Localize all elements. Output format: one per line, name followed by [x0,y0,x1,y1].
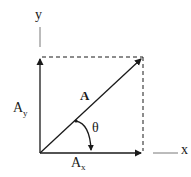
y-component-label: A y [13,100,28,118]
vector-a-label: A [80,88,90,103]
x-component-label: A x [71,155,86,172]
y-component-label-sub: y [23,108,28,118]
x-axis-label: x [181,142,188,157]
angle-arc [76,121,91,150]
x-component-label-sub: x [81,162,86,172]
angle-theta-label: θ [92,120,99,135]
y-axis-label: y [35,7,42,22]
vector-components-diagram: y x A θ A y A x [0,0,191,177]
resultant-vector-a [40,59,141,153]
